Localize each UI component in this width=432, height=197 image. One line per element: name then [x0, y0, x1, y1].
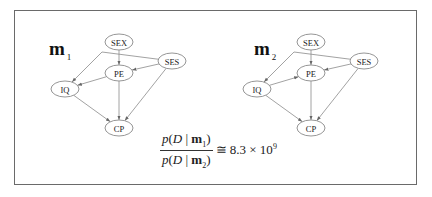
node-m1-pe: PE	[105, 65, 133, 81]
edge-m2-iq-to-pe	[269, 77, 298, 86]
svg-text:SEX: SEX	[111, 38, 127, 48]
likelihood-ratio: p(D | m1) p(D | m2)	[160, 131, 213, 169]
bayes-factor-value: ≅ 8.3 × 109	[216, 142, 277, 158]
edge-m2-ses-to-pe	[324, 64, 351, 70]
edge-m1-pe-to-iq	[77, 77, 106, 86]
svg-text:SEX: SEX	[303, 38, 319, 48]
node-m2-iq: IQ	[243, 81, 271, 97]
numerator: p(D | m1)	[160, 131, 213, 151]
node-m2-cp: CP	[297, 120, 325, 136]
denominator: p(D | m2)	[160, 151, 213, 170]
edge-m1-iq-to-cp	[74, 95, 111, 121]
svg-text:SES: SES	[357, 57, 372, 67]
node-m1-iq: IQ	[51, 81, 79, 97]
node-m1-sex: SEX	[105, 34, 133, 50]
node-m2-sex: SEX	[297, 34, 325, 50]
edge-m1-ses-to-pe	[132, 64, 159, 70]
svg-text:SES: SES	[165, 57, 180, 67]
node-m1-ses: SES	[158, 53, 186, 69]
edge-m2-iq-to-cp	[266, 95, 303, 121]
node-m1-cp: CP	[105, 120, 133, 136]
svg-text:CP: CP	[306, 124, 317, 134]
svg-text:PE: PE	[114, 69, 124, 79]
bayes-factor-formula: p(D | m1) p(D | m2) ≅ 8.3 × 109	[160, 131, 277, 169]
svg-text:IQ: IQ	[253, 85, 262, 95]
svg-text:PE: PE	[306, 69, 316, 79]
node-m2-ses: SES	[350, 53, 378, 69]
svg-text:IQ: IQ	[61, 85, 70, 95]
svg-text:CP: CP	[114, 124, 125, 134]
node-m2-pe: PE	[297, 65, 325, 81]
